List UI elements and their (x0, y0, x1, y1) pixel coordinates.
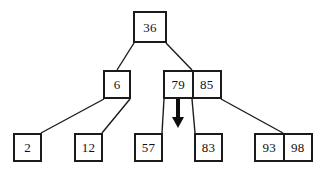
tree-edge (162, 99, 164, 133)
node-key-cell: 98 (283, 135, 312, 160)
node-key-cell: 2 (15, 135, 40, 160)
insert-pointer-arrow (172, 99, 184, 128)
tree-node-leaf-1: 2 (13, 133, 42, 162)
tree-edge (117, 43, 134, 70)
node-key-cell: 85 (192, 72, 221, 97)
node-key-cell: 83 (196, 135, 221, 160)
tree-edge (41, 99, 104, 133)
node-key-cell: 57 (136, 135, 161, 160)
tree-edge (192, 99, 195, 133)
node-key-cell: 93 (256, 135, 283, 160)
edge-group (41, 43, 283, 133)
tree-node-leaf-3: 57 (134, 133, 163, 162)
tree-node-leaf-4: 83 (194, 133, 223, 162)
tree-edge (166, 43, 192, 70)
arrow-head (172, 117, 184, 128)
node-key-cell: 6 (105, 72, 129, 97)
tree-edge (102, 99, 130, 133)
tree-node-root: 36 (133, 11, 167, 43)
node-key-cell: 36 (135, 13, 165, 41)
tree-node-internal-right: 7985 (163, 70, 222, 99)
node-key-cell: 79 (165, 72, 192, 97)
tree-node-internal-left: 6 (103, 70, 131, 99)
btree-diagram: 366798521257839398 (0, 0, 328, 176)
tree-edge (221, 99, 283, 133)
tree-node-leaf-2: 12 (74, 133, 103, 162)
node-key-cell: 12 (76, 135, 101, 160)
tree-node-leaf-5: 9398 (254, 133, 313, 162)
